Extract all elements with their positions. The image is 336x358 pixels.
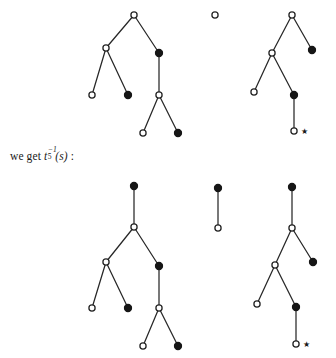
filled-node	[124, 91, 131, 98]
tree-edge	[92, 262, 106, 308]
tree-edge	[272, 15, 292, 53]
star-icon: ★	[303, 340, 310, 349]
filled-node	[288, 183, 295, 190]
filled-node	[155, 49, 162, 56]
open-node	[251, 89, 257, 95]
caption-suffix: :	[68, 150, 74, 162]
open-node	[289, 12, 295, 18]
tree-diagram-canvas: ★★	[0, 0, 336, 358]
open-node	[215, 225, 221, 231]
open-node	[103, 259, 109, 265]
open-node	[131, 12, 137, 18]
figure-root: ★★ we get t−15(s) :	[0, 0, 336, 358]
filled-node	[214, 184, 221, 191]
open-node	[89, 92, 95, 98]
filled-node	[174, 129, 181, 136]
open-node	[140, 130, 146, 136]
tree-edge	[92, 48, 106, 95]
open-node	[212, 12, 218, 18]
open-node	[156, 305, 162, 311]
tree-edge	[292, 228, 313, 262]
caption-symbol-subscript: 5	[48, 150, 52, 164]
filled-node	[130, 182, 137, 189]
open-node	[254, 301, 260, 307]
open-node	[289, 225, 295, 231]
open-node	[272, 262, 278, 268]
tree-edge	[143, 308, 159, 346]
tree-edge	[159, 308, 178, 346]
caption-symbol-argument: (s)	[55, 150, 67, 162]
tree-edge	[106, 227, 134, 262]
tree-edge	[292, 15, 312, 50]
tree-edge	[159, 95, 178, 133]
tree-edge	[275, 228, 292, 265]
edges-layer	[92, 15, 313, 346]
open-node	[103, 45, 109, 51]
open-node	[89, 305, 95, 311]
tree-edge	[272, 53, 294, 95]
tree-edge	[106, 48, 128, 95]
star-icon: ★	[301, 127, 308, 136]
marks-layer: ★★	[301, 127, 310, 349]
tree-edge	[106, 15, 134, 48]
filled-node	[292, 303, 299, 310]
tree-edge	[134, 15, 159, 53]
tree-edge	[257, 265, 275, 304]
filled-node	[174, 342, 181, 349]
filled-node	[309, 258, 316, 265]
caption-prefix: we get	[10, 150, 44, 162]
tree-edge	[143, 95, 159, 133]
open-node	[131, 224, 137, 230]
tree-edge	[254, 53, 272, 92]
open-node	[156, 92, 162, 98]
tree-edge	[106, 262, 128, 308]
caption-symbol-base: t	[44, 150, 47, 162]
filled-node	[308, 46, 315, 53]
caption-line: we get t−15(s) :	[10, 148, 74, 163]
open-node	[269, 50, 275, 56]
tree-edge	[134, 227, 159, 266]
open-node	[140, 343, 146, 349]
open-node	[291, 128, 297, 134]
filled-node	[155, 262, 162, 269]
tree-edge	[275, 265, 296, 307]
filled-node	[290, 91, 297, 98]
filled-node	[124, 304, 131, 311]
open-node	[293, 341, 299, 347]
